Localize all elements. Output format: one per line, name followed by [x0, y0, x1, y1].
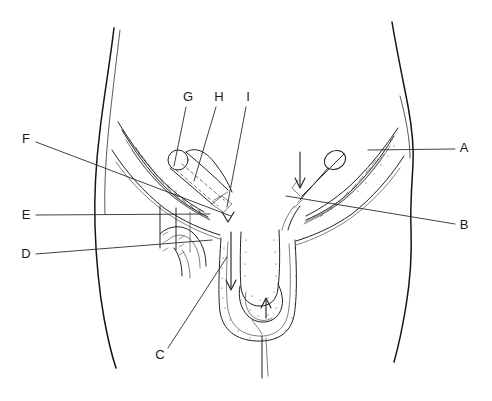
- label-G: G: [183, 89, 193, 104]
- figure-background: [0, 0, 492, 401]
- label-A: A: [460, 140, 469, 155]
- label-H: H: [214, 89, 223, 104]
- anatomy-diagram-canvas: A B C D E F G H I: [0, 0, 492, 401]
- label-E: E: [22, 207, 31, 222]
- label-F: F: [22, 131, 30, 146]
- label-D: D: [21, 246, 30, 261]
- label-I: I: [246, 89, 250, 104]
- label-C: C: [155, 347, 164, 362]
- anatomy-figure: A B C D E F G H I: [0, 0, 492, 401]
- label-B: B: [460, 217, 469, 232]
